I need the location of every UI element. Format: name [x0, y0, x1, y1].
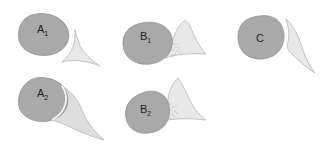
wedge-shape — [286, 19, 315, 73]
panel-b1: B1 — [110, 0, 220, 75]
panel-c: C — [220, 0, 327, 75]
diagram-c: C — [220, 0, 327, 75]
diagram-a1: A1 — [0, 0, 110, 75]
panel-a1: A1 — [0, 0, 110, 75]
diagram-b1: B1 — [110, 0, 220, 75]
diagram-b2: B2 — [110, 70, 220, 148]
label-c: C — [256, 32, 264, 44]
round-body — [19, 78, 68, 122]
diagram-a2: A2 — [0, 70, 110, 148]
panel-a2: A2 — [0, 70, 110, 148]
panel-b2: B2 — [110, 70, 220, 148]
